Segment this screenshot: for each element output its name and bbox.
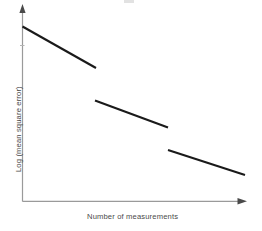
- y-axis-arrowhead: [19, 4, 25, 13]
- y-axis-label: Log (mean square error): [14, 86, 23, 172]
- chart-plot: [0, 0, 262, 231]
- data-line-segment-3: [168, 150, 245, 175]
- data-line-segment-2: [95, 101, 168, 128]
- figure-container: Log (mean square error) Number of measur…: [0, 0, 262, 231]
- x-axis-label: Number of measurements: [87, 212, 178, 221]
- x-axis-arrowhead: [238, 198, 248, 204]
- data-line-segment-1: [23, 27, 97, 69]
